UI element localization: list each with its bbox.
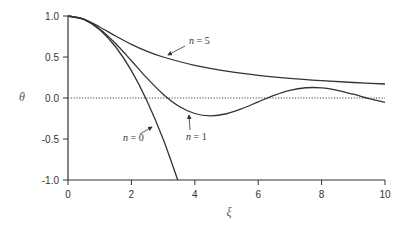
y-tick-label: 1.0 — [45, 11, 59, 22]
series-line-n1 — [68, 16, 385, 116]
x-tick-label: 8 — [319, 189, 325, 200]
axes: 1.00.50.0-0.5-1.00246810 — [42, 11, 391, 201]
series-line-n0 — [68, 16, 179, 183]
x-tick-label: 10 — [379, 189, 391, 200]
x-tick-label: 4 — [192, 189, 198, 200]
annotation-label: n = 0 — [123, 132, 144, 143]
annotation-arrow — [189, 115, 190, 130]
annotation-arrow — [168, 46, 185, 55]
annotation-label: n = 1 — [186, 131, 207, 142]
x-tick-label: 2 — [129, 189, 135, 200]
chart: 1.00.50.0-0.5-1.00246810 n = 5n = 1n = 0… — [0, 0, 405, 228]
annotations: n = 5n = 1n = 0 — [123, 35, 210, 143]
series-line-n5 — [68, 16, 385, 84]
x-tick-label: 0 — [65, 189, 71, 200]
y-axis-label: θ — [19, 90, 25, 104]
y-tick-label: 0.0 — [45, 93, 59, 104]
x-tick-label: 6 — [255, 189, 261, 200]
series-lines — [68, 16, 385, 183]
y-tick-label: -0.5 — [42, 134, 60, 145]
y-tick-label: 0.5 — [45, 52, 59, 63]
y-tick-label: -1.0 — [42, 175, 60, 186]
x-axis-label: ξ — [226, 205, 232, 219]
annotation-label: n = 5 — [189, 35, 210, 46]
